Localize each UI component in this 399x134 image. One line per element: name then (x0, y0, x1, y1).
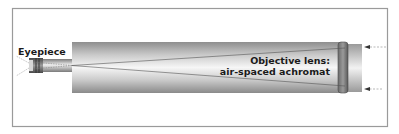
eyepiece-lens (29, 60, 33, 71)
eyepiece-label: Eyepiece (18, 46, 66, 57)
telescope-diagram: Eyepiece Objective lens: air-spaced achr… (0, 0, 399, 134)
objective-label-line1: Objective lens: (250, 55, 330, 66)
objective-label-line2: air-spaced achromat (220, 66, 331, 77)
focuser-drawtube (40, 59, 72, 72)
